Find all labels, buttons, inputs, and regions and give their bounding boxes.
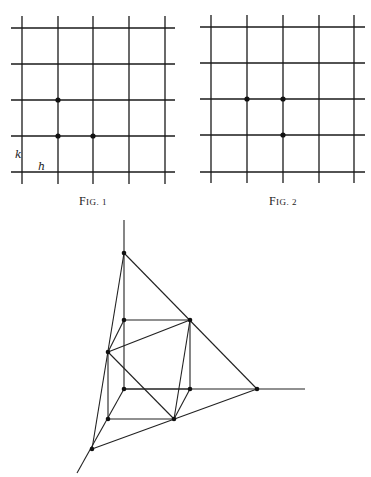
vertex-A xyxy=(122,251,127,256)
fig2-caption: FIG. 2 xyxy=(269,194,297,208)
axis-line xyxy=(77,389,124,473)
vertex-C xyxy=(188,318,193,323)
edge-DC xyxy=(108,320,190,352)
grid-point xyxy=(280,96,285,101)
fig1-grid-figure: kh xyxy=(11,16,175,184)
fig1-caption: FIG. 1 xyxy=(79,194,107,208)
fig3-tetrahedron-cube-figure xyxy=(77,220,305,473)
spacing-label-h: h xyxy=(38,160,45,173)
figure-canvas: kh FIG. 1 FIG. 2 xyxy=(0,0,371,477)
vertex-I xyxy=(172,417,177,422)
grid-point xyxy=(244,96,249,101)
vertex-B xyxy=(122,318,127,323)
grid-point xyxy=(90,133,95,138)
vertex-G xyxy=(255,387,260,392)
grid-point xyxy=(55,97,60,102)
grid-point xyxy=(280,132,285,137)
spacing-label-k: k xyxy=(15,148,22,161)
vertex-H xyxy=(106,417,111,422)
grid-point xyxy=(55,133,60,138)
fig2-grid-figure xyxy=(200,15,365,183)
vertex-D xyxy=(106,350,111,355)
vertex-E xyxy=(122,387,127,392)
vertex-F xyxy=(188,387,193,392)
edge-ID xyxy=(108,352,174,419)
vertex-J xyxy=(90,447,95,452)
